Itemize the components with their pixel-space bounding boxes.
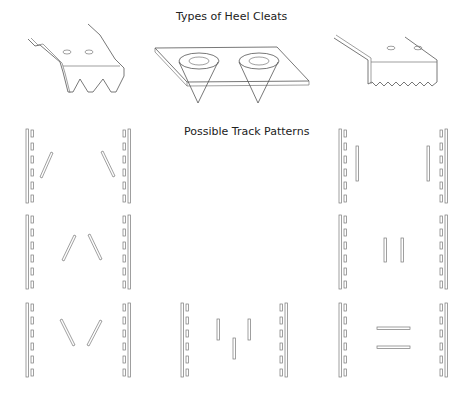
track-pattern-row-1 xyxy=(26,129,448,203)
pattern-v-shape xyxy=(26,303,131,377)
pattern-horizontal-pair xyxy=(339,303,448,377)
spike-plate-cleat-illustration xyxy=(155,47,309,103)
track-pattern-row-2 xyxy=(26,215,448,289)
pattern-staggered-vertical-three xyxy=(181,303,288,377)
serrated-angle-cleat-illustration xyxy=(334,35,437,86)
pattern-diagonals-converging-down xyxy=(26,129,131,203)
diagram-canvas xyxy=(0,0,469,396)
pattern-inverted-v xyxy=(26,215,131,289)
track-pattern-row-3 xyxy=(26,303,448,377)
toothed-cleat-illustration xyxy=(28,24,124,93)
pattern-vertical-pair-wide xyxy=(339,129,448,203)
pattern-vertical-pair-narrow xyxy=(339,215,448,289)
